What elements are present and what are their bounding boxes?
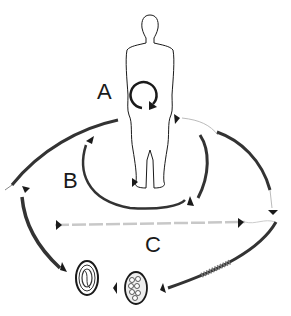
- egg-embryonated: [76, 261, 98, 295]
- life-cycle-diagram: [0, 0, 291, 316]
- label-a: A: [97, 81, 112, 103]
- filariform-larva: [168, 222, 276, 288]
- free-living-adult-worm: [22, 197, 60, 268]
- cycle-a-right-arc: [182, 118, 218, 135]
- egg-morula: [125, 272, 147, 304]
- cycle-c-line: [55, 222, 245, 225]
- label-c: C: [145, 234, 161, 256]
- label-b: B: [63, 170, 78, 192]
